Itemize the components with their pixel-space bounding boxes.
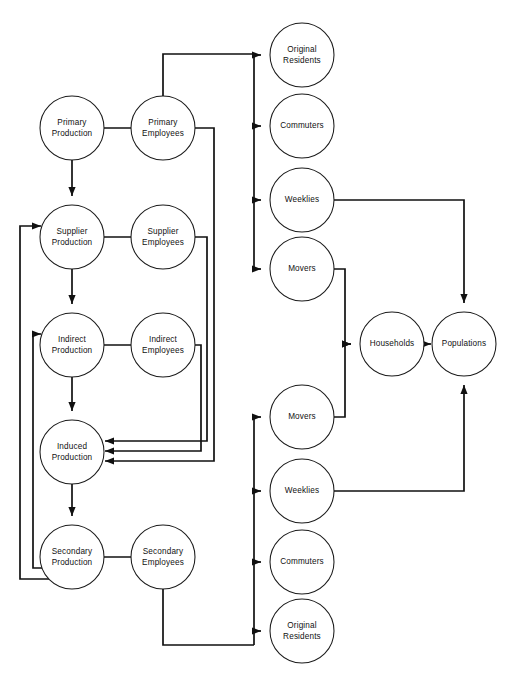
node-movers_bottom[interactable]: Movers — [270, 385, 334, 449]
arrowhead-icon — [342, 340, 351, 347]
node-label-line1: Original — [287, 621, 316, 630]
node-label-line1: Supplier — [56, 227, 87, 236]
flow-diagram-canvas: PrimaryProductionPrimaryEmployeesSupplie… — [0, 0, 506, 677]
node-label-line2: Production — [52, 346, 93, 355]
node-label-line1: Indirect — [58, 335, 87, 344]
node-populations[interactable]: Populations — [432, 312, 496, 376]
edge-e-sp-ip — [68, 269, 75, 304]
node-label-line1: Primary — [57, 118, 87, 127]
edge-e-secp-supp-fb — [20, 222, 51, 579]
node-induced_production[interactable]: InducedProduction — [40, 420, 104, 484]
node-label-line1: Indirect — [149, 335, 178, 344]
node-label-line1: Primary — [148, 118, 178, 127]
arrowhead-icon — [68, 402, 75, 411]
node-label-line1: Commuters — [280, 557, 324, 566]
node-label-line1: Households — [370, 339, 415, 348]
edge-e-bus-wk2 — [252, 487, 261, 494]
edge-e-wktop-pop — [334, 200, 468, 303]
node-label-line2: Employees — [142, 558, 184, 567]
arrowhead-icon — [252, 413, 261, 420]
node-label-line1: Secondary — [52, 547, 93, 556]
edge-path — [105, 128, 214, 461]
arrowhead-icon — [32, 330, 41, 337]
arrowhead-icon — [252, 487, 261, 494]
node-label-line2: Employees — [142, 238, 184, 247]
edge-path — [334, 344, 351, 417]
arrowhead-icon — [32, 222, 41, 229]
arrowhead-icon — [68, 507, 75, 516]
node-label-line2: Production — [52, 238, 93, 247]
node-label-line2: Production — [52, 453, 93, 462]
node-supplier_production[interactable]: SupplierProduction — [40, 205, 104, 269]
node-label-line1: Commuters — [280, 121, 324, 130]
node-secondary_employees[interactable]: SecondaryEmployees — [131, 525, 195, 589]
edge-e-bus-com — [252, 122, 261, 129]
arrowhead-icon — [460, 385, 467, 394]
arrowhead-icon — [460, 294, 467, 303]
edge-e-pp-sp — [68, 160, 75, 196]
node-primary_employees[interactable]: PrimaryEmployees — [131, 96, 195, 160]
node-indirect_employees[interactable]: IndirectEmployees — [131, 313, 195, 377]
edge-path — [20, 226, 51, 579]
arrowhead-icon — [252, 265, 261, 272]
edge-e-bus-com2 — [252, 558, 261, 565]
edge-e-wkbot-pop — [334, 385, 468, 491]
node-movers_top[interactable]: Movers — [270, 237, 334, 301]
edge-e-see-bus2 — [163, 589, 254, 645]
arrowhead-icon — [68, 187, 75, 196]
edge-e-ip-indp — [68, 377, 75, 411]
arrowhead-icon — [252, 122, 261, 129]
node-label-line1: Weeklies — [285, 195, 319, 204]
node-indirect_production[interactable]: IndirectProduction — [40, 313, 104, 377]
arrowhead-icon — [105, 437, 114, 444]
edge-e-bus-mv2 — [252, 413, 261, 420]
arrowhead-icon — [252, 627, 261, 634]
node-label-line1: Secondary — [143, 547, 184, 556]
node-supplier_employees[interactable]: SupplierEmployees — [131, 205, 195, 269]
edge-e-bus-mv — [252, 265, 261, 272]
node-label-line2: Employees — [142, 129, 184, 138]
edge-path — [334, 385, 464, 491]
node-label-line2: Employees — [142, 346, 184, 355]
node-secondary_production[interactable]: SecondaryProduction — [40, 525, 104, 589]
edge-e-mvbot-hh — [334, 340, 351, 417]
edge-e-mvtop-hh — [334, 269, 351, 348]
arrowhead-icon — [68, 295, 75, 304]
edge-path — [163, 589, 254, 645]
node-original_residents_bottom[interactable]: OriginalResidents — [270, 599, 334, 663]
node-label-line2: Residents — [283, 56, 321, 65]
node-commuters_top[interactable]: Commuters — [270, 94, 334, 158]
arrowhead-icon — [252, 51, 261, 58]
node-label-line1: Weeklies — [285, 486, 319, 495]
node-label-line1: Movers — [288, 264, 316, 273]
node-label-line1: Original — [287, 45, 316, 54]
edge-path — [334, 269, 351, 344]
edge-path — [334, 200, 464, 303]
arrowhead-icon — [252, 196, 261, 203]
node-label-line1: Supplier — [147, 227, 178, 236]
node-original_residents_top[interactable]: OriginalResidents — [270, 23, 334, 87]
node-primary_production[interactable]: PrimaryProduction — [40, 96, 104, 160]
node-label-line1: Movers — [288, 412, 316, 421]
edge-e-bus-or2 — [252, 627, 261, 634]
node-weeklies_bottom[interactable]: Weeklies — [270, 459, 334, 523]
flow-diagram-svg: PrimaryProductionPrimaryEmployeesSupplie… — [0, 0, 506, 677]
node-label-line2: Production — [52, 558, 93, 567]
node-label-line1: Populations — [442, 339, 486, 348]
node-commuters_bottom[interactable]: Commuters — [270, 530, 334, 594]
edge-e-pe-bus — [163, 54, 254, 96]
node-weeklies_top[interactable]: Weeklies — [270, 168, 334, 232]
arrowhead-icon — [105, 447, 114, 454]
arrowhead-icon — [252, 558, 261, 565]
edge-path — [163, 54, 254, 96]
node-households[interactable]: Households — [360, 312, 424, 376]
edge-e-indp-sep — [68, 484, 75, 516]
node-label-line1: Induced — [57, 442, 87, 451]
node-label-line2: Residents — [283, 632, 321, 641]
arrowhead-icon — [105, 457, 114, 464]
edge-e-pe-ind3 — [105, 128, 214, 465]
edge-e-bus-or — [252, 51, 261, 58]
edge-e-bus-wk — [252, 196, 261, 203]
node-label-line2: Production — [52, 129, 93, 138]
